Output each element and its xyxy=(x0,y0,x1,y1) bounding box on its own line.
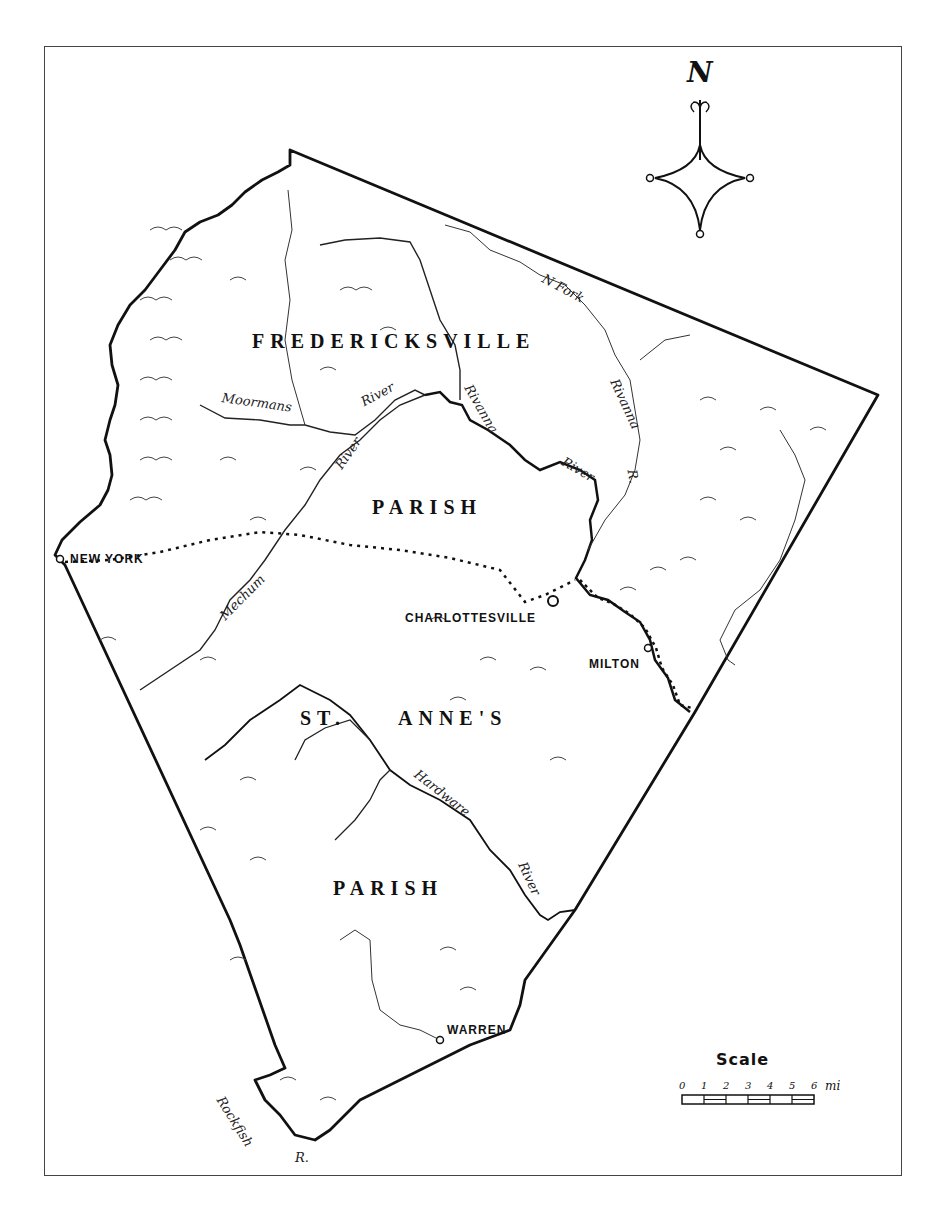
town-label-milton: MILTON xyxy=(589,657,640,671)
terrain-hachures xyxy=(100,227,826,1100)
town-label-new-york: NEW YORK xyxy=(70,552,144,566)
scale-tick-1: 1 xyxy=(701,1080,707,1091)
compass-rose-icon xyxy=(647,100,754,238)
scale-unit: mi xyxy=(825,1079,840,1093)
scale-tick-4: 4 xyxy=(767,1080,773,1091)
parish-line-river xyxy=(580,580,692,708)
compass-north-label: N xyxy=(687,56,713,89)
river-label-r-north: R. xyxy=(625,468,642,484)
county-boundary xyxy=(55,150,878,1140)
charlottesville-marker xyxy=(548,596,558,606)
scale-tick-0: 0 xyxy=(679,1080,685,1091)
parish-label-annes: ANNE'S xyxy=(398,707,507,730)
milton-marker xyxy=(645,645,652,652)
scale-bar xyxy=(682,1095,814,1104)
parish-label-st: ST. xyxy=(300,707,346,730)
scale-tick-3: 3 xyxy=(745,1080,751,1091)
mechum-river xyxy=(140,395,425,690)
rivanna-river xyxy=(425,392,690,712)
scale-tick-2: 2 xyxy=(723,1080,729,1091)
scale-title: Scale xyxy=(716,1050,769,1069)
parish-label-fredericksville: FREDERICKSVILLE xyxy=(252,330,535,353)
warren-marker xyxy=(437,1037,444,1044)
town-label-warren: WARREN xyxy=(447,1023,506,1037)
parish-line xyxy=(65,532,575,602)
river-label-rockfish-r: R. xyxy=(295,1150,309,1165)
scale-tick-6: 6 xyxy=(811,1080,817,1091)
scale-tick-5: 5 xyxy=(789,1080,795,1091)
parish-label-st-annes-parish: PARISH xyxy=(333,877,443,900)
parish-label-fredericksville-parish: PARISH xyxy=(372,496,482,519)
new-york-marker xyxy=(57,556,64,563)
town-label-charlottesville: CHARLOTTESVILLE xyxy=(405,611,536,625)
